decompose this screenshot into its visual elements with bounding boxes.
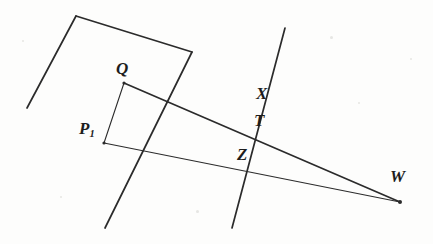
vertex-label-t: T xyxy=(254,112,264,129)
segment-P1-to-Q xyxy=(104,83,124,143)
vertex-label-w: W xyxy=(390,168,405,185)
vertex-label-subscript: 1 xyxy=(90,128,95,139)
quad-top-edge xyxy=(76,16,192,52)
vertex-label-p1: P1 xyxy=(79,120,95,139)
vertex-label-x: X xyxy=(256,85,267,102)
scan-speck-3 xyxy=(196,210,199,213)
vertex-label-q: Q xyxy=(116,60,128,77)
scan-speck-0 xyxy=(330,36,333,39)
geometry-figure: QP1XTZW xyxy=(0,0,433,244)
scan-speck-1 xyxy=(358,102,360,104)
dot-P1 xyxy=(102,141,105,144)
scan-speck-4 xyxy=(410,58,412,60)
vertex-label-z: Z xyxy=(237,146,247,163)
scan-speck-5 xyxy=(22,40,24,42)
diagram-canvas xyxy=(0,0,433,244)
dot-W xyxy=(398,200,402,204)
quad-left-edge xyxy=(27,16,76,108)
scan-speck-2 xyxy=(60,196,62,198)
dot-Q xyxy=(122,81,125,84)
transversal-left xyxy=(105,52,192,228)
